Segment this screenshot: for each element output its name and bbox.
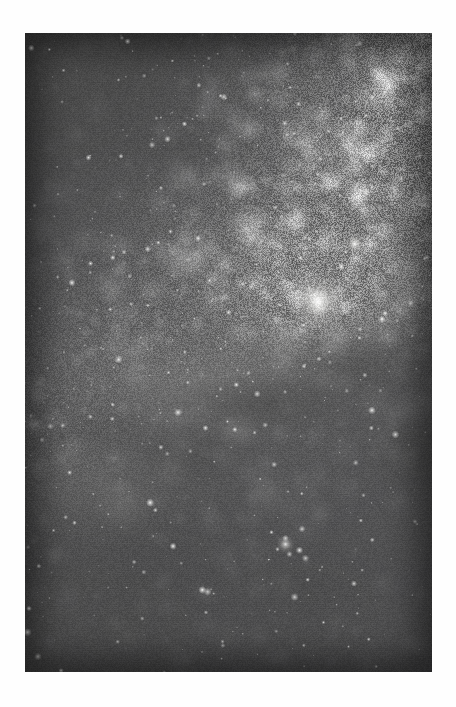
scanline-texture-layer (25, 33, 432, 672)
star-field-layer (25, 33, 432, 672)
galactic-core-layer (25, 33, 432, 672)
nebulosity-patch-layer (25, 33, 432, 672)
page-canvas (0, 0, 456, 707)
astrophotograph (25, 33, 432, 672)
milky-way-band-layer (25, 33, 432, 672)
dust-lane-layer (25, 33, 432, 672)
sky-background-layer (25, 33, 432, 672)
vignette-layer (25, 33, 432, 672)
film-grain-layer (25, 33, 432, 672)
